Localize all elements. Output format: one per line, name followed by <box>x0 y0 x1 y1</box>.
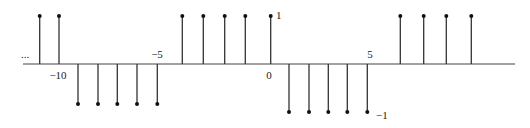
stem-dot-marker <box>243 14 247 18</box>
stem-dot-marker <box>201 14 205 18</box>
stem-dot-marker <box>135 102 139 106</box>
stem-n-3 <box>201 14 205 64</box>
continuation-ellipsis: ... <box>21 48 30 60</box>
stem-n4 <box>345 64 349 114</box>
stem-n5 <box>365 64 369 114</box>
stem-dot-marker <box>469 14 473 18</box>
stem-n-2 <box>223 14 227 64</box>
stem-dot-marker <box>76 102 80 106</box>
stem-n3 <box>326 64 330 114</box>
stem-dot-marker <box>422 14 426 18</box>
stem-dot-marker <box>180 14 184 18</box>
stem-n-4 <box>180 14 184 64</box>
x-tick-label: 0 <box>266 69 272 81</box>
stem-n-8 <box>96 64 100 106</box>
amplitude-label: −1 <box>376 109 388 121</box>
amplitude-label: 1 <box>276 9 282 21</box>
stem-dot-marker <box>307 110 311 114</box>
stem-n9 <box>469 14 473 64</box>
stem-dot-marker <box>365 110 369 114</box>
stem-n-6 <box>135 64 139 106</box>
x-tick-label: −5 <box>151 48 163 60</box>
stem-n-11 <box>38 14 42 64</box>
stem-dot-marker <box>398 14 402 18</box>
stem-plot: −10−5051−1... <box>0 0 530 128</box>
stem-n-5 <box>155 64 159 106</box>
stem-n-10 <box>57 14 61 64</box>
stem-dot-marker <box>223 14 227 18</box>
stem-dot-marker <box>115 102 119 106</box>
stem-dot-marker <box>155 102 159 106</box>
stem-dot-marker <box>57 14 61 18</box>
stem-n-9 <box>76 64 80 106</box>
stem-n-1 <box>243 14 247 64</box>
stem-dot-marker <box>269 14 273 18</box>
stem-n2 <box>307 64 311 114</box>
stem-dot-marker <box>444 14 448 18</box>
stem-n6 <box>398 14 402 64</box>
x-tick-label: 5 <box>367 48 373 60</box>
stem-n7 <box>422 14 426 64</box>
stem-n0 <box>269 14 273 64</box>
stem-n1 <box>287 64 291 114</box>
labels-group: −10−5051−1... <box>21 9 388 121</box>
stem-dot-marker <box>345 110 349 114</box>
stem-n8 <box>444 14 448 64</box>
stem-dot-marker <box>38 14 42 18</box>
stem-dot-marker <box>96 102 100 106</box>
stem-dot-marker <box>326 110 330 114</box>
stem-dot-marker <box>287 110 291 114</box>
stem-n-7 <box>115 64 119 106</box>
x-tick-label: −10 <box>49 69 67 81</box>
